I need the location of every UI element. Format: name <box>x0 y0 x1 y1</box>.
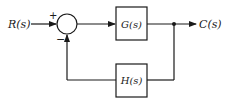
plus-sign: + <box>49 10 57 21</box>
output-label: C(s) <box>199 18 222 31</box>
forward-block-label: G(s) <box>121 19 142 30</box>
input-label: R(s) <box>7 18 31 31</box>
summing-junction <box>57 14 77 34</box>
block-diagram: R(s) + − G(s) C(s) H(s) <box>0 0 228 103</box>
feedback-block-label: H(s) <box>120 75 143 86</box>
minus-sign: − <box>56 33 65 46</box>
